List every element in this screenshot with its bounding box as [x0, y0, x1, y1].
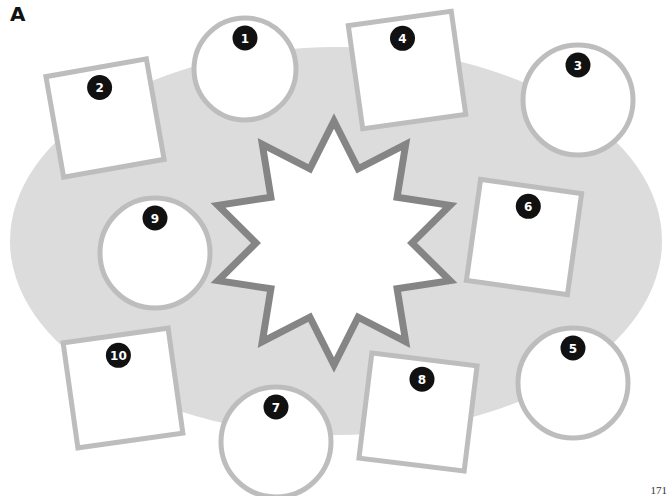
seat-number-label: 2 — [95, 81, 103, 95]
seat-number-label: 7 — [272, 401, 280, 415]
seat-number-label: 6 — [524, 200, 532, 214]
seat-4: 4 — [348, 11, 465, 128]
seat-number-label: 4 — [398, 32, 406, 46]
seating-diagram: 12345678910 — [0, 0, 671, 496]
seat-number-label: 10 — [110, 349, 127, 363]
seat-7: 7 — [221, 387, 331, 496]
seat-number-label: 3 — [574, 59, 582, 73]
seat-number-label: 1 — [241, 32, 249, 46]
seat-8: 8 — [359, 353, 477, 471]
seat-number-label: 5 — [569, 342, 577, 356]
seat-6: 6 — [466, 179, 581, 294]
seat-number-label: 9 — [151, 212, 159, 226]
page-number: 171 — [651, 484, 668, 496]
seat-1: 1 — [194, 18, 296, 120]
seat-5: 5 — [518, 328, 628, 438]
seat-number-label: 8 — [418, 373, 426, 387]
seat-3: 3 — [523, 45, 633, 155]
seat-10: 10 — [63, 328, 183, 448]
seat-2: 2 — [46, 59, 164, 177]
seat-9: 9 — [100, 198, 210, 308]
